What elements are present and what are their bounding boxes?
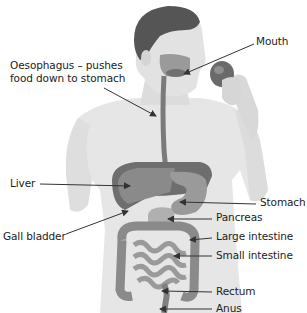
label-stomach: Stomach (260, 196, 306, 209)
label-anus: Anus (216, 302, 242, 313)
label-mouth: Mouth (256, 35, 288, 48)
label-rectum: Rectum (216, 285, 255, 298)
label-small-intestine: Small intestine (216, 249, 293, 262)
label-liver: Liver (10, 177, 35, 190)
label-oesophagus-line2: food down to stomach (10, 72, 125, 85)
label-gall-bladder: Gall bladder (3, 230, 66, 243)
digestive-system-diagram: Mouth Oesophagus – pushes food down to s… (0, 0, 307, 313)
pancreas-shape (148, 207, 175, 224)
label-oesophagus-line1: Oesophagus – pushes (10, 59, 123, 72)
label-pancreas: Pancreas (216, 211, 262, 224)
oesophagus-shape (163, 76, 166, 172)
label-large-intestine: Large intestine (216, 230, 293, 243)
